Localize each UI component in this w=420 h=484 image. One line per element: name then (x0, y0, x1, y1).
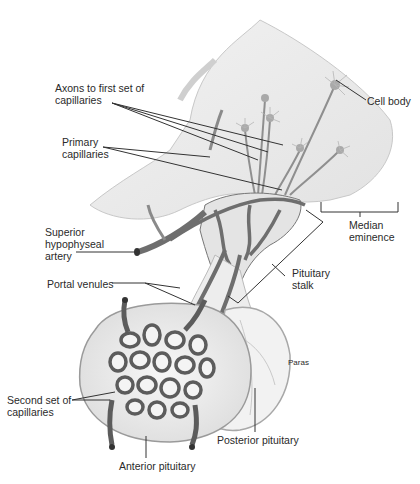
label-posterior-pituitary: Posterior pituitary (217, 434, 299, 446)
label-primary-capillaries: Primary capillaries (62, 136, 109, 160)
anterior-pituitary-tissue (80, 303, 251, 442)
label-second-set-of-capillaries: Second set of capillaries (7, 394, 71, 418)
label-portal-venules: Portal venules (47, 278, 114, 290)
label-paras: Paras (288, 357, 309, 369)
hypothalamus-tissue (90, 20, 393, 219)
label-superior-hypophyseal-artery: Superior hypophyseal artery (45, 226, 104, 262)
label-anterior-pituitary: Anterior pituitary (119, 460, 195, 472)
label-axons-to-first-capillaries: Axons to first set of capillaries (55, 82, 144, 106)
diagram-canvas: Axons to first set of capillaries Primar… (0, 0, 420, 484)
label-cell-body: Cell body (367, 95, 411, 107)
label-median-eminence: Median eminence (349, 219, 395, 243)
label-pituitary-stalk: Pituitary stalk (292, 267, 330, 291)
